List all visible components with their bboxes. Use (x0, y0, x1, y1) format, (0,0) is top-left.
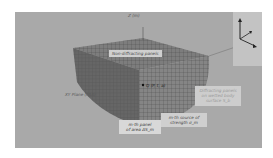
coordinate-axes-icon (233, 12, 262, 66)
point-q-label: Q (P, t, a) (146, 83, 165, 88)
mth-panel-label: m-th panel of area ΔS_m (119, 120, 161, 134)
z-axis-label: Z (m) (128, 13, 140, 18)
mth-source-label: m-th source of strength σ_m (161, 113, 207, 127)
diffracting-panels-label: Diffracting panels on wetted body surfac… (195, 86, 241, 106)
non-diffracting-panels-label: Non-diffracting panels (109, 50, 162, 57)
xy-plane-label: XY Plane (FAA) (65, 92, 96, 97)
diagram-frame: Z (m) Non-diffracting panels Q (P, t, a)… (15, 12, 262, 148)
